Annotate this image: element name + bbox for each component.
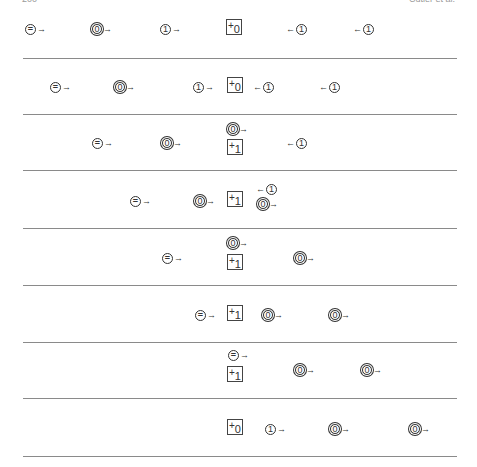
- adder-box: +1: [227, 254, 243, 270]
- arrow-right-icon: →: [173, 139, 182, 148]
- zero-circle-icon: 0: [195, 196, 205, 206]
- zero-circle-icon: 0: [115, 82, 125, 92]
- arrow-left-icon: ←: [353, 25, 362, 34]
- arrow-right-icon: →: [306, 254, 315, 263]
- box-subscript: 0: [235, 82, 241, 93]
- arrow-right-icon: →: [306, 366, 315, 375]
- row-divider: [23, 342, 457, 343]
- one-circle-icon: 1: [296, 24, 307, 35]
- eq-token-right: =→: [92, 136, 114, 150]
- row-divider: [23, 285, 457, 286]
- adder-box: +0: [227, 419, 243, 435]
- adder-box: +1: [227, 191, 243, 207]
- arrow-left-icon: ←: [319, 83, 328, 92]
- adder-box: +1: [227, 139, 243, 155]
- box-subscript: 1: [235, 310, 241, 321]
- arrow-left-icon: ←: [256, 185, 265, 194]
- arrow-right-icon: →: [269, 200, 278, 209]
- one-token-left: ←1: [318, 80, 340, 94]
- one-token-left: ←1: [285, 22, 307, 36]
- arrow-left-icon: ←: [286, 139, 295, 148]
- one-token-right: 1→: [193, 80, 215, 94]
- one-circle-icon: 1: [329, 82, 340, 93]
- one-token-left: ←1: [285, 136, 307, 150]
- row-divider: [23, 228, 457, 229]
- arrow-right-icon: →: [239, 125, 248, 134]
- zero-token-right: 0→: [258, 197, 279, 211]
- one-circle-icon: 1: [266, 184, 277, 195]
- box-subscript: 1: [235, 144, 241, 155]
- box-subscript: 1: [235, 259, 241, 270]
- adder-box: +0: [227, 77, 243, 93]
- eq-circle-icon: =: [195, 310, 206, 321]
- arrow-right-icon: →: [142, 197, 151, 206]
- adder-box: +0: [226, 19, 242, 35]
- row-divider: [23, 114, 457, 115]
- one-token-right: 1→: [160, 22, 182, 36]
- running-header: Cutler et al.: [409, 0, 455, 4]
- arrow-right-icon: →: [240, 351, 249, 360]
- eq-token-right: =→: [228, 348, 250, 362]
- row-divider: [23, 58, 457, 59]
- zero-token-right: 0→: [330, 422, 351, 436]
- eq-circle-icon: =: [162, 253, 173, 264]
- zero-circle-icon: 0: [258, 199, 268, 209]
- zero-circle-icon: 0: [410, 424, 420, 434]
- zero-token-right: 0→: [115, 80, 136, 94]
- arrow-left-icon: ←: [286, 25, 295, 34]
- eq-circle-icon: =: [92, 138, 103, 149]
- eq-token-right: =→: [50, 80, 72, 94]
- zero-token-right: 0→: [295, 251, 316, 265]
- arrow-right-icon: →: [341, 425, 350, 434]
- page-number: 200: [22, 0, 37, 4]
- row-divider: [23, 398, 457, 399]
- zero-circle-icon: 0: [295, 365, 305, 375]
- eq-circle-icon: =: [50, 82, 61, 93]
- zero-token-right: 0→: [330, 308, 351, 322]
- arrow-right-icon: →: [205, 83, 214, 92]
- zero-circle-icon: 0: [362, 365, 372, 375]
- arrow-right-icon: →: [172, 25, 181, 34]
- eq-token-right: =→: [130, 194, 152, 208]
- arrow-right-icon: →: [174, 254, 183, 263]
- one-circle-icon: 1: [193, 82, 204, 93]
- zero-circle-icon: 0: [228, 238, 238, 248]
- zero-circle-icon: 0: [92, 24, 102, 34]
- eq-token-right: =→: [162, 251, 184, 265]
- eq-circle-icon: =: [130, 196, 141, 207]
- arrow-right-icon: →: [373, 366, 382, 375]
- zero-token-right: 0→: [295, 363, 316, 377]
- zero-circle-icon: 0: [162, 138, 172, 148]
- one-token-left: ←1: [252, 80, 274, 94]
- zero-token-right: 0→: [263, 308, 284, 322]
- arrow-right-icon: →: [37, 25, 46, 34]
- arrow-right-icon: →: [206, 197, 215, 206]
- adder-box: +1: [227, 305, 243, 321]
- arrow-right-icon: →: [207, 311, 216, 320]
- box-subscript: 1: [235, 371, 241, 382]
- arrow-right-icon: →: [239, 239, 248, 248]
- zero-token-right: 0→: [228, 122, 249, 136]
- one-token-left: ←1: [352, 22, 374, 36]
- arrow-right-icon: →: [421, 425, 430, 434]
- one-circle-icon: 1: [265, 424, 276, 435]
- eq-token-right: =→: [25, 22, 47, 36]
- one-circle-icon: 1: [263, 82, 274, 93]
- adder-box: +1: [227, 366, 243, 382]
- zero-token-right: 0→: [92, 22, 113, 36]
- arrow-left-icon: ←: [253, 83, 262, 92]
- zero-token-right: 0→: [410, 422, 431, 436]
- arrow-right-icon: →: [341, 311, 350, 320]
- zero-token-right: 0→: [195, 194, 216, 208]
- one-token-left: ←1: [255, 182, 277, 196]
- box-subscript: 0: [234, 24, 240, 35]
- zero-circle-icon: 0: [263, 310, 273, 320]
- zero-token-right: 0→: [362, 363, 383, 377]
- eq-circle-icon: =: [25, 24, 36, 35]
- arrow-right-icon: →: [62, 83, 71, 92]
- arrow-right-icon: →: [126, 83, 135, 92]
- eq-token-right: =→: [195, 308, 217, 322]
- zero-token-right: 0→: [228, 236, 249, 250]
- box-subscript: 1: [235, 196, 241, 207]
- row-divider: [23, 456, 457, 457]
